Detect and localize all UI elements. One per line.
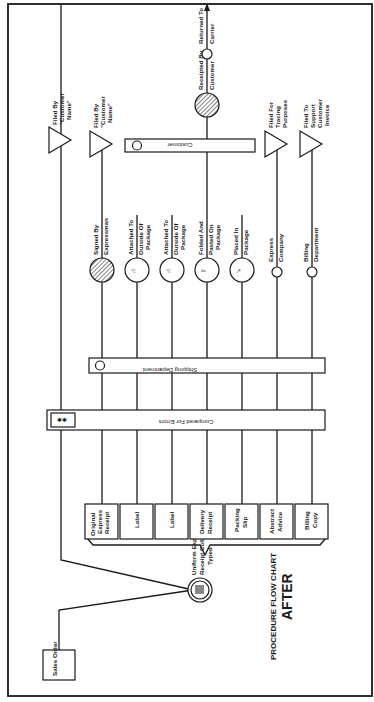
svg-text:Receipt: Receipt (206, 512, 213, 534)
copy-billing-copy: Billing Copy (295, 504, 328, 539)
svg-text:Filed To: Filed To (302, 105, 309, 128)
svg-text:Support: Support (309, 104, 316, 128)
chart-title: PROCEDURE FLOW CHART AFTER (269, 553, 295, 660)
hand-icon (125, 258, 149, 282)
sales-order-label: Sales Order (51, 641, 58, 676)
svg-text:Label: Label (133, 512, 140, 528)
svg-text:Company: Company (277, 233, 284, 262)
fold-icon (195, 258, 219, 282)
svg-text:Pasted On: Pasted On (207, 224, 214, 255)
to-circle-icon (272, 267, 282, 277)
svg-text:Customer: Customer (316, 99, 323, 128)
copy-original-express-receipt: Original Express Receipt (85, 504, 118, 539)
copy-label-1: Label (120, 504, 153, 539)
inspect-icon: ✱✱ (57, 417, 67, 423)
svg-text:☜: ☜ (131, 268, 136, 274)
svg-text:Receipt: Receipt (103, 512, 110, 534)
svg-text:Express: Express (96, 509, 103, 534)
svg-text:Folded And: Folded And (197, 221, 204, 255)
svg-text:Name": Name" (106, 103, 113, 123)
svg-text:Expressman: Expressman (102, 218, 109, 255)
svg-text:Original: Original (89, 512, 96, 536)
svg-text:AFTER: AFTER (279, 573, 295, 620)
svg-text:Package: Package (214, 224, 221, 250)
svg-text:Slip: Slip (241, 516, 248, 528)
svg-text:Outside Of: Outside Of (172, 222, 179, 255)
svg-text:☜: ☜ (166, 268, 171, 274)
shipping-department-bar: Shipping Department (89, 358, 325, 373)
svg-text:Filed For: Filed For (267, 101, 274, 128)
svg-text:Advice: Advice (276, 511, 283, 532)
svg-text:Billing: Billing (303, 511, 310, 530)
svg-text:Billing: Billing (302, 243, 309, 262)
svg-text:"Customer: "Customer (99, 96, 106, 128)
procedure-flow-chart: Sales Order Uniform Express Receipt Coll… (0, 0, 374, 702)
svg-text:Abstract: Abstract (268, 509, 275, 534)
svg-text:Placed In: Placed In (232, 228, 239, 255)
svg-text:Shipping Department: Shipping Department (142, 367, 197, 373)
svg-text:Label: Label (168, 512, 175, 528)
file-triangle-3: Filed For Tracing Purposes (265, 99, 288, 157)
to-circle-icon (202, 49, 212, 59)
place-icon (230, 258, 254, 282)
copy-packing-slip: Packing Slip (225, 504, 258, 539)
svg-text:Delivery: Delivery (198, 509, 205, 534)
svg-text:Packing: Packing (233, 508, 240, 532)
receipted-hatched-circle (195, 93, 219, 117)
svg-text:"Customer: "Customer (58, 93, 65, 125)
svg-text:Purposes: Purposes (281, 99, 288, 128)
svg-text:Returned To: Returned To (197, 8, 204, 44)
svg-text:PROCEDURE FLOW CHART: PROCEDURE FLOW CHART (269, 553, 278, 660)
copy-label-2: Label (155, 504, 188, 539)
svg-text:↗: ↗ (236, 268, 241, 274)
copies-row: Original Express Receipt Label Label Del… (85, 504, 328, 539)
svg-text:Copy: Copy (311, 512, 318, 528)
svg-text:✂: ✂ (201, 268, 206, 274)
svg-text:Package: Package (179, 224, 186, 250)
svg-text:Express: Express (267, 237, 274, 262)
file-triangle-2: Filed By "Customer Name" (90, 96, 113, 157)
svg-text:Filed By: Filed By (51, 100, 58, 125)
svg-text:Signed By: Signed By (92, 224, 99, 255)
svg-text:Name": Name" (65, 100, 72, 120)
svg-text:Package: Package (242, 229, 249, 255)
svg-text:Customer: Customer (208, 61, 215, 90)
svg-text:Tracing: Tracing (274, 106, 281, 128)
svg-text:Outside Of: Outside Of (137, 222, 144, 255)
typewriter-icon (195, 585, 204, 594)
svg-text:Package: Package (144, 224, 151, 250)
svg-text:Filed By: Filed By (92, 103, 99, 128)
signed-hatched-circle (90, 258, 114, 282)
svg-text:Customer: Customer (167, 142, 192, 148)
svg-text:Attached To: Attached To (127, 219, 134, 255)
to-circle-icon (307, 267, 317, 277)
step-labels: Signed By Expressman Attached To Outside… (92, 218, 319, 262)
svg-text:Compared For Errors: Compared For Errors (159, 419, 214, 425)
svg-text:Department: Department (312, 228, 319, 262)
svg-text:Attached To: Attached To (162, 219, 169, 255)
copy-abstract-advice: Abstract Advice (260, 504, 293, 539)
svg-text:Invoice: Invoice (323, 104, 330, 126)
svg-text:Carrier: Carrier (208, 23, 215, 44)
hand-icon (160, 258, 184, 282)
customer-bar: Customer (125, 139, 255, 152)
copy-delivery-receipt: Delivery Receipt (190, 504, 223, 539)
compared-for-errors-bar: ✱✱ Compared For Errors (47, 410, 325, 430)
file-triangle-4: Filed To Support Customer Invoice (300, 99, 330, 157)
file-triangle-1: Filed By "Customer Name" (49, 93, 72, 153)
